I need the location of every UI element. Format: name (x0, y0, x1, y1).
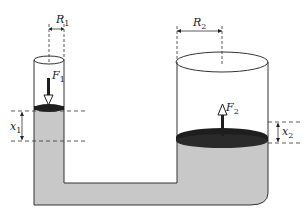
f1-label: F1 (51, 69, 65, 84)
f2-label: F2 (225, 101, 239, 116)
force-arrow-f1: F1 (44, 69, 65, 105)
fluid (34, 110, 268, 205)
radius-dimension-r2 (177, 26, 222, 64)
hydraulic-press-diagram: F1 F2 R1 R2 x1 x2 (0, 0, 306, 217)
r2-label: R2 (192, 16, 206, 31)
x1-label: x1 (10, 120, 21, 135)
r1-label: R1 (55, 13, 69, 28)
x2-label: x2 (282, 125, 293, 140)
